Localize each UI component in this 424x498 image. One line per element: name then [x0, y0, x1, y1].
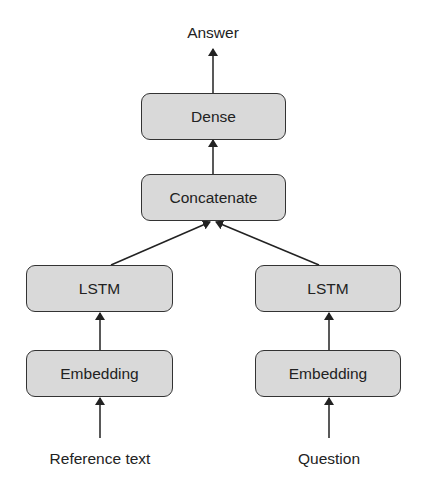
node-dense-label: Dense: [191, 108, 236, 126]
arrow-lstm-right-to-concatenate: [216, 222, 319, 265]
node-concatenate: Concatenate: [141, 174, 286, 221]
node-embedding-right-label: Embedding: [289, 365, 367, 383]
arrow-lstm-left-to-concatenate: [111, 222, 210, 265]
output-label-answer: Answer: [187, 24, 239, 42]
node-embedding-right: Embedding: [255, 350, 401, 397]
node-embedding-left: Embedding: [26, 350, 173, 397]
connector-arrows: [0, 0, 424, 498]
node-dense: Dense: [141, 93, 286, 140]
input-label-reference-text: Reference text: [50, 450, 151, 468]
node-lstm-left: LSTM: [26, 265, 173, 312]
node-embedding-left-label: Embedding: [60, 365, 138, 383]
node-lstm-right: LSTM: [255, 265, 401, 312]
input-label-question: Question: [298, 450, 360, 468]
node-lstm-left-label: LSTM: [79, 280, 120, 298]
node-lstm-right-label: LSTM: [307, 280, 348, 298]
node-concatenate-label: Concatenate: [170, 189, 258, 207]
